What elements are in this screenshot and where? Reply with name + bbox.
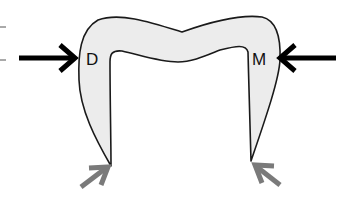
left-reaction-arrow [81, 167, 108, 187]
label-m: M [252, 50, 266, 70]
cross-section-shape [79, 16, 280, 166]
label-d: D [86, 50, 98, 70]
right-reaction-arrow [255, 165, 280, 185]
left-force-arrow [19, 45, 75, 71]
right-force-arrow [280, 45, 336, 71]
diagram-canvas [0, 0, 349, 199]
